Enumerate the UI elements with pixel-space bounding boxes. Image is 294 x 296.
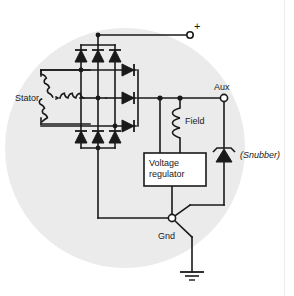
dot-phase-c [113, 124, 118, 129]
dot-bridge-bottom [96, 146, 101, 151]
background-disc [5, 28, 245, 268]
voltage-regulator-label-line1: Voltage [149, 158, 179, 168]
gnd-label: Gnd [158, 231, 175, 241]
voltage-regulator-label-line2: regulator [149, 169, 185, 179]
stator-wye-node [56, 97, 58, 99]
dot-phase-a [79, 68, 84, 73]
terminal-gnd[interactable] [168, 214, 175, 221]
dot-plus-rail [96, 33, 101, 38]
dot-phase-b [96, 96, 101, 101]
stator-label: Stator [15, 93, 39, 103]
dot-regulator-tap [157, 95, 162, 100]
field-label: Field [185, 116, 205, 126]
plus-label: + [194, 20, 200, 32]
aux-label: Aux [214, 82, 230, 92]
terminal-aux[interactable] [220, 94, 227, 101]
dot-field-tap [177, 95, 182, 100]
terminal-plus[interactable] [187, 32, 193, 38]
alternator-schematic: Voltage regulator Stator Field Aux Gnd +… [0, 0, 294, 296]
snubber-label: (Snubber) [240, 150, 280, 160]
